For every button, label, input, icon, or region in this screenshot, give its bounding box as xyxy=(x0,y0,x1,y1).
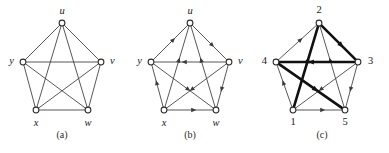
edge-c-3-to-5 xyxy=(346,65,357,107)
node-c-3[interactable] xyxy=(355,59,361,65)
node-b-y[interactable] xyxy=(148,59,154,65)
edge-a-y-to-u xyxy=(25,25,60,60)
node-c-2[interactable] xyxy=(316,20,322,26)
graph-panel-a: uvwxy(a) xyxy=(8,5,115,141)
edge-a-u-to-x xyxy=(37,26,61,107)
edge-b-u-to-v xyxy=(192,25,227,60)
arrowhead-b-v-to-y xyxy=(182,60,187,64)
node-a-v[interactable] xyxy=(98,59,104,65)
node-label-a-u: u xyxy=(59,5,64,16)
edge-layer-thin-c xyxy=(277,25,357,112)
graph-panel-b: uvwxy(b) xyxy=(136,5,243,141)
edge-a-u-to-w xyxy=(63,26,87,107)
node-label-c-2: 2 xyxy=(316,4,321,15)
node-label-c-4: 4 xyxy=(262,55,268,66)
edge-b-w-to-u xyxy=(191,26,215,107)
arrowhead-b-y-to-w xyxy=(185,86,190,91)
arrowhead-b-x-to-w xyxy=(191,108,196,112)
node-label-c-1: 1 xyxy=(290,116,295,127)
edge-a-v-to-w xyxy=(89,65,100,107)
graph-figure-canvas: uvwxy(a)uvwxy(b)23514(c) xyxy=(0,0,389,153)
node-label-c-5: 5 xyxy=(342,116,347,127)
node-label-b-y: y xyxy=(136,55,142,66)
node-label-b-v: v xyxy=(238,55,243,66)
edge-c-1-to-2 xyxy=(294,26,318,107)
edge-c-2-to-3 xyxy=(321,25,356,60)
node-a-y[interactable] xyxy=(20,59,26,65)
edge-a-w-to-y xyxy=(25,64,85,109)
node-c-4[interactable] xyxy=(273,59,279,65)
edge-layer-thin-b xyxy=(152,25,228,112)
node-label-c-3: 3 xyxy=(368,55,373,66)
edge-b-x-to-y xyxy=(152,65,163,107)
node-a-u[interactable] xyxy=(59,20,65,26)
node-c-1[interactable] xyxy=(290,107,296,113)
edge-layer-bold-c xyxy=(278,25,356,108)
edge-b-v-to-x xyxy=(166,64,226,109)
panel-caption-c: (c) xyxy=(316,129,327,141)
panel-caption-a: (a) xyxy=(56,129,67,141)
arrowhead-c-1-to-4 xyxy=(282,80,286,85)
node-label-a-v: v xyxy=(110,55,115,66)
edge-b-y-to-w xyxy=(153,64,213,109)
node-label-b-x: x xyxy=(161,117,167,128)
node-a-x[interactable] xyxy=(33,107,39,113)
node-b-v[interactable] xyxy=(226,59,232,65)
edge-a-u-to-v xyxy=(64,25,99,60)
edge-c-4-to-2 xyxy=(278,25,317,60)
arrowhead-c-1-to-5 xyxy=(320,108,325,112)
graph-figure: uvwxy(a)uvwxy(b)23514(c) xyxy=(0,0,389,153)
edge-a-x-to-y xyxy=(24,65,35,107)
node-label-a-w: w xyxy=(84,117,91,128)
arrowhead-b-v-to-x xyxy=(190,86,195,91)
edge-b-y-to-u xyxy=(153,25,188,60)
node-label-a-y: y xyxy=(8,55,14,66)
edge-layer-thin-a xyxy=(24,25,100,110)
edge-b-x-to-u xyxy=(165,26,189,107)
node-label-a-x: x xyxy=(33,117,39,128)
edge-a-v-to-x xyxy=(38,64,98,109)
edge-b-v-to-w xyxy=(217,65,228,107)
panel-caption-b: (b) xyxy=(184,129,196,141)
graph-panel-c: 23514(c) xyxy=(262,4,374,141)
node-c-5[interactable] xyxy=(342,107,348,113)
node-label-b-w: w xyxy=(212,117,219,128)
node-b-x[interactable] xyxy=(161,107,167,113)
node-label-b-u: u xyxy=(187,5,192,16)
node-b-w[interactable] xyxy=(213,107,219,113)
arrowhead-c-3-to-1 xyxy=(319,86,324,91)
node-a-w[interactable] xyxy=(85,107,91,113)
node-b-u[interactable] xyxy=(187,20,193,26)
